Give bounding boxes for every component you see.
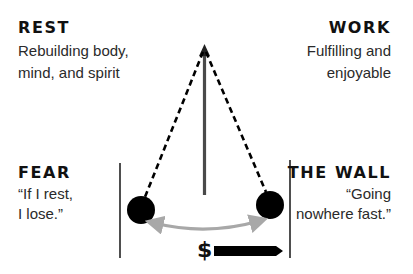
left-dashed-string: [145, 52, 203, 197]
rest-line-2: mind, and spirit: [18, 64, 129, 81]
work-line-2: enjoyable: [307, 64, 391, 81]
wall-title: THE WALL: [288, 164, 391, 182]
wall-quote-line-1: “Going: [288, 185, 391, 202]
left-pendulum-ball: [127, 196, 155, 224]
fear-quote-line-1: “If I rest,: [18, 185, 73, 202]
swing-arc-double-arrow-icon: [154, 221, 259, 229]
dollar-sign: $: [197, 237, 212, 263]
rest-label: REST Rebuilding body, mind, and spirit: [18, 19, 129, 81]
wall-label: THE WALL “Going nowhere fast.”: [288, 164, 391, 222]
pendulum-diagram: $ REST Rebuilding body, mind, and spirit…: [0, 0, 413, 274]
work-line-1: Fulfilling and: [307, 42, 391, 59]
fear-label: FEAR “If I rest, I lose.”: [18, 164, 73, 222]
right-pendulum-ball: [256, 191, 284, 219]
work-title: WORK: [307, 19, 391, 37]
fear-title: FEAR: [18, 164, 73, 182]
center-axis-arrow-icon: [199, 44, 210, 195]
rest-line-1: Rebuilding body,: [18, 42, 129, 59]
fear-quote-line-2: I lose.”: [18, 205, 73, 222]
wall-quote-line-2: nowhere fast.”: [288, 205, 391, 222]
right-dashed-string: [206, 52, 266, 192]
rest-title: REST: [18, 19, 129, 37]
work-label: WORK Fulfilling and enjoyable: [307, 19, 391, 81]
money-arrow-icon: [214, 246, 283, 256]
